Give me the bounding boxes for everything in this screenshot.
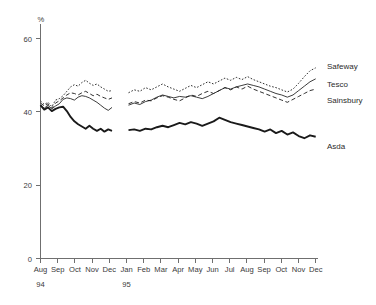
x-tick-label-sep-95: Sep bbox=[257, 265, 271, 274]
x-tick-label-aug-95: Aug bbox=[240, 265, 254, 274]
x-tick-label-jun-95: Jun bbox=[206, 265, 218, 274]
series-label-tesco: Tesco bbox=[327, 80, 348, 89]
x-tick-label-nov-94: Nov bbox=[85, 265, 99, 274]
y-tick-group: 60 40 20 0 bbox=[24, 35, 41, 264]
series-path-tesco-b bbox=[129, 79, 316, 105]
x-tick-group: Aug Sep Oct Nov Dec Jan Feb Mar Apr May … bbox=[34, 259, 323, 275]
y-tick-label-0: 0 bbox=[28, 255, 32, 264]
y-tick-label-60: 60 bbox=[24, 35, 32, 44]
x-tick-label-jan-95: Jan bbox=[120, 265, 132, 274]
x-tick-label-nov-95: Nov bbox=[292, 265, 306, 274]
y-tick-label-40: 40 bbox=[24, 108, 32, 117]
x-tick-label-sep-94: Sep bbox=[51, 265, 65, 274]
year-marker-group: 94 95 bbox=[36, 280, 130, 289]
year-label-94: 94 bbox=[36, 280, 44, 289]
y-axis-unit-label: % bbox=[38, 15, 45, 24]
series-path-asda-b bbox=[129, 118, 316, 139]
series-path-safeway-a bbox=[41, 80, 113, 106]
line-chart: 60 40 20 0 % Aug Sep Oct Nov Dec Jan bbox=[0, 0, 376, 305]
series-label-group: Safeway Tesco Sainsbury Asda bbox=[327, 62, 363, 151]
series-group bbox=[41, 68, 316, 138]
axes-group bbox=[41, 24, 319, 259]
series-label-safeway: Safeway bbox=[327, 62, 358, 71]
x-tick-label-jul-95: Jul bbox=[225, 265, 235, 274]
series-label-asda: Asda bbox=[327, 142, 346, 151]
series-label-sainsbury: Sainsbury bbox=[327, 96, 363, 105]
x-tick-label-feb-95: Feb bbox=[137, 265, 150, 274]
y-tick-label-20: 20 bbox=[24, 181, 32, 190]
year-label-95: 95 bbox=[122, 280, 130, 289]
x-tick-label-apr-95: Apr bbox=[172, 265, 184, 274]
x-tick-label-oct-95: Oct bbox=[275, 265, 288, 274]
x-tick-label-aug-94: Aug bbox=[34, 265, 48, 274]
x-tick-label-dec-94: Dec bbox=[103, 265, 117, 274]
x-tick-label-oct-94: Oct bbox=[69, 265, 82, 274]
chart-canvas: 60 40 20 0 % Aug Sep Oct Nov Dec Jan bbox=[0, 0, 376, 305]
x-tick-label-may-95: May bbox=[188, 265, 203, 274]
x-tick-label-mar-95: Mar bbox=[154, 265, 168, 274]
series-path-asda-a bbox=[41, 105, 113, 131]
x-tick-label-dec-95: Dec bbox=[309, 265, 323, 274]
